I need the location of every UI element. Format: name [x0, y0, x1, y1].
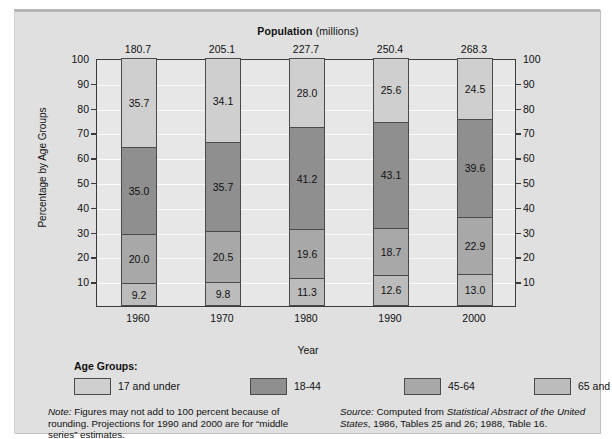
note-text: Note: Figures may not add to 100 percent… [48, 406, 320, 439]
bar-segment-1980-65-and-over[interactable]: 11.3 [289, 278, 325, 306]
y-tickmark-left-90 [91, 84, 96, 85]
y-axis-tick-left-80: 80 [61, 103, 89, 115]
y-axis-tick-left-20: 20 [61, 251, 89, 263]
legend: 17 and under18-4445-6465 and over [74, 377, 594, 397]
bar-segment-1970-18-44[interactable]: 35.7 [205, 142, 241, 231]
y-tickmark-left-60 [91, 158, 96, 159]
chart-top-title-strong: Population [257, 25, 312, 37]
bar-segment-1970-17-and-under[interactable]: 34.1 [205, 58, 241, 143]
bar-segment-label: 25.6 [381, 84, 401, 96]
y-tickmark-right-50 [516, 183, 521, 184]
y-axis-tick-right-100: 100 [523, 53, 551, 65]
y-tickmark-left-30 [91, 233, 96, 234]
y-tickmark-left-20 [91, 257, 96, 258]
figure-card: Population (millions) 180.7205.1227.7250… [14, 9, 600, 433]
chart-top-title-unit: (millions) [316, 25, 359, 37]
bar-segment-1980-45-64[interactable]: 19.6 [289, 229, 325, 278]
y-axis-tick-left-30: 30 [61, 227, 89, 239]
y-tickmark-right-20 [516, 257, 521, 258]
y-tickmark-right-10 [516, 282, 521, 283]
bar-segment-2000-17-and-under[interactable]: 24.5 [457, 58, 493, 119]
source-body-1: Computed from [374, 406, 447, 417]
note-body: Figures may not add to 100 percent becau… [48, 406, 288, 439]
bar-segment-1990-18-44[interactable]: 43.1 [373, 122, 409, 229]
bar-segment-label: 18.7 [381, 246, 401, 258]
legend-item-65-and-over[interactable]: 65 and over [534, 377, 612, 395]
bar-column-1990[interactable]: 12.618.743.125.6 [373, 58, 409, 306]
x-axis-tick-1980: 1980 [264, 312, 348, 324]
population-value-1990: 250.4 [348, 43, 432, 55]
y-tickmark-right-90 [516, 84, 521, 85]
bar-segment-label: 35.7 [213, 181, 233, 193]
bar-segment-1960-65-and-over[interactable]: 9.2 [121, 283, 157, 306]
bar-segment-label: 22.9 [465, 240, 485, 252]
bar-segment-label: 20.0 [129, 253, 149, 265]
x-axis-title: Year [15, 344, 601, 356]
bar-segment-1980-17-and-under[interactable]: 28.0 [289, 58, 325, 127]
y-axis-tick-left-50: 50 [61, 177, 89, 189]
y-tickmark-right-70 [516, 133, 521, 134]
legend-label: 18-44 [294, 380, 321, 392]
population-value-1980: 227.7 [264, 43, 348, 55]
bar-segment-1980-18-44[interactable]: 41.2 [289, 127, 325, 229]
plot-inner: 9.220.035.035.79.820.535.734.111.319.641… [97, 60, 515, 306]
legend-swatch-icon [534, 378, 571, 395]
bar-segment-label: 9.8 [216, 288, 231, 300]
x-axis-tick-1990: 1990 [348, 312, 432, 324]
bar-segment-1970-45-64[interactable]: 20.5 [205, 231, 241, 282]
y-axis-tick-right-90: 90 [523, 78, 551, 90]
legend-label: 17 and under [118, 380, 180, 392]
legend-item-18-44[interactable]: 18-44 [250, 377, 321, 395]
bar-segment-1990-65-and-over[interactable]: 12.6 [373, 275, 409, 306]
bar-segment-label: 11.3 [297, 286, 317, 298]
bar-segment-label: 34.1 [213, 95, 233, 107]
bar-segment-1960-45-64[interactable]: 20.0 [121, 234, 157, 284]
population-value-2000: 268.3 [432, 43, 516, 55]
y-tickmark-right-30 [516, 233, 521, 234]
legend-item-17-and-under[interactable]: 17 and under [74, 377, 180, 395]
y-tickmark-right-60 [516, 158, 521, 159]
bar-segment-2000-18-44[interactable]: 39.6 [457, 119, 493, 217]
legend-item-45-64[interactable]: 45-64 [404, 377, 475, 395]
plot-area: 9.220.035.035.79.820.535.734.111.319.641… [96, 59, 516, 307]
bar-segment-1960-18-44[interactable]: 35.0 [121, 147, 157, 234]
note-label: Note: [48, 406, 71, 417]
chart-top-title: Population (millions) [15, 25, 601, 37]
y-axis-tick-right-40: 40 [523, 202, 551, 214]
bar-segment-1960-17-and-under[interactable]: 35.7 [121, 58, 157, 147]
y-axis-tick-right-70: 70 [523, 127, 551, 139]
y-axis-tick-left-70: 70 [61, 127, 89, 139]
legend-swatch-icon [404, 378, 441, 395]
bar-column-1970[interactable]: 9.820.535.734.1 [205, 58, 241, 306]
y-axis-tick-right-80: 80 [523, 103, 551, 115]
bar-segment-1990-17-and-under[interactable]: 25.6 [373, 58, 409, 121]
legend-title: Age Groups: [74, 360, 138, 372]
bar-segment-1990-45-64[interactable]: 18.7 [373, 228, 409, 274]
bar-segment-label: 20.5 [213, 251, 233, 263]
y-axis-tick-right-50: 50 [523, 177, 551, 189]
y-axis-title: Percentage by Age Groups [37, 88, 48, 248]
y-axis-tick-left-40: 40 [61, 202, 89, 214]
y-axis-tick-left-90: 90 [61, 78, 89, 90]
y-axis-tick-left-100: 100 [61, 53, 89, 65]
y-tickmark-left-50 [91, 183, 96, 184]
legend-label: 45-64 [448, 380, 475, 392]
x-axis-tick-1960: 1960 [96, 312, 180, 324]
bar-segment-2000-65-and-over[interactable]: 13.0 [457, 274, 493, 306]
y-tickmark-right-80 [516, 109, 521, 110]
y-tickmark-left-10 [91, 282, 96, 283]
bar-segment-label: 35.7 [129, 97, 149, 109]
figure-root: Population (millions) 180.7205.1227.7250… [0, 0, 612, 439]
legend-swatch-icon [74, 378, 111, 395]
bar-column-1960[interactable]: 9.220.035.035.7 [121, 58, 157, 306]
bar-segment-1970-65-and-over[interactable]: 9.8 [205, 282, 241, 306]
y-axis-tick-right-20: 20 [523, 251, 551, 263]
bar-column-1980[interactable]: 11.319.641.228.0 [289, 58, 325, 306]
bar-segment-label: 12.6 [381, 284, 401, 296]
bar-column-2000[interactable]: 13.022.939.624.5 [457, 58, 493, 306]
x-axis-tick-1970: 1970 [180, 312, 264, 324]
source-label: Source: [340, 406, 374, 417]
x-axis-tick-2000: 2000 [432, 312, 516, 324]
legend-swatch-icon [250, 378, 287, 395]
bar-segment-2000-45-64[interactable]: 22.9 [457, 217, 493, 274]
